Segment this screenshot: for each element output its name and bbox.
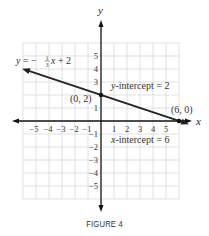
- svg-text:1: 1: [46, 55, 49, 61]
- svg-text:−2: −2: [69, 124, 78, 134]
- svg-text:5: 5: [164, 124, 168, 134]
- x-axis: [12, 119, 192, 124]
- svg-text:1: 1: [112, 124, 116, 134]
- svg-text:y = −: y = −: [15, 55, 37, 66]
- figure-caption: FIGURE 4: [16, 219, 194, 229]
- x-tick-labels: −5 −4 −3 −2 −1 1 2 3 4 5: [29, 124, 168, 134]
- svg-text:−3: −3: [56, 124, 65, 134]
- point-x-intercept: [177, 119, 181, 123]
- svg-text:4: 4: [151, 124, 156, 134]
- y-intercept-label: y-intercept = 2: [110, 80, 169, 91]
- point-b-label: (6, 0): [171, 104, 193, 116]
- svg-text:3: 3: [46, 62, 49, 68]
- x-intercept-label: x-intercept = 6: [110, 134, 169, 145]
- svg-text:1: 1: [94, 103, 98, 113]
- svg-text:−4: −4: [43, 124, 53, 134]
- svg-text:x + 2: x + 2: [50, 55, 71, 66]
- arrow-down-icon: [99, 205, 104, 212]
- point-y-intercept: [99, 93, 103, 97]
- svg-text:−5: −5: [89, 181, 98, 191]
- arrow-left-icon: [12, 119, 19, 124]
- svg-text:−3: −3: [89, 155, 98, 165]
- svg-text:5: 5: [94, 51, 98, 61]
- coordinate-plane: y x −5 −4 −3 −2 −1 1 2 3 4 5 5 4 3 1 −1 …: [0, 0, 209, 236]
- y-axis-label: y: [97, 4, 103, 16]
- equation-label: y = − 1 3 x + 2: [15, 55, 71, 68]
- svg-text:−2: −2: [89, 142, 98, 152]
- x-axis-label: x: [195, 115, 201, 127]
- line-series: [22, 68, 189, 124]
- svg-text:−5: −5: [29, 124, 38, 134]
- svg-text:3: 3: [138, 124, 142, 134]
- svg-text:3: 3: [94, 77, 98, 87]
- arrow-up-icon: [99, 20, 104, 27]
- svg-text:−1: −1: [89, 129, 98, 139]
- y-axis: [99, 20, 104, 212]
- svg-text:−4: −4: [89, 168, 99, 178]
- svg-text:2: 2: [125, 124, 129, 134]
- point-a-label: (0, 2): [70, 93, 92, 105]
